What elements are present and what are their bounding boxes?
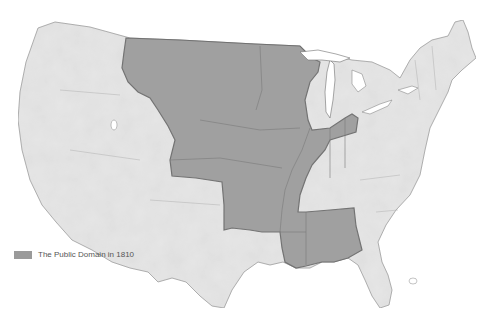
legend-swatch-public-domain — [14, 251, 32, 259]
legend-label-public-domain: The Public Domain in 1810 — [38, 250, 134, 259]
map-canvas — [0, 0, 496, 330]
legend: The Public Domain in 1810 — [14, 250, 134, 259]
great-salt-lake — [111, 120, 117, 130]
lake-okeechobee — [409, 278, 417, 284]
